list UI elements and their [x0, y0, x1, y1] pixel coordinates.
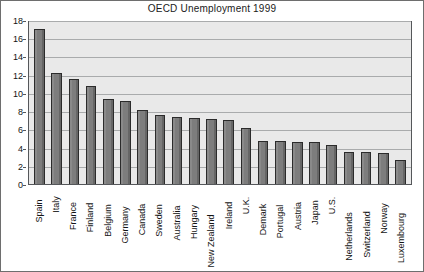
y-tick-mark [23, 21, 26, 22]
x-tick-label-text: Demark [258, 204, 268, 236]
y-tick-label: 12 [13, 71, 23, 81]
y-tick-mark [23, 130, 26, 131]
x-tick-slot: Spain [30, 187, 47, 271]
bar-slot [169, 22, 186, 184]
bar-slot [48, 22, 65, 184]
bar-slot [358, 22, 375, 184]
y-tick-label: 14 [13, 52, 23, 62]
x-tick-label-text: Australia [172, 206, 182, 241]
x-tick-label-text: Austria [293, 202, 303, 230]
bar-slot [254, 22, 271, 184]
x-tick-label-text: Norway [379, 203, 389, 234]
y-tick-label: 18 [13, 16, 23, 26]
x-tick-slot: Japan [306, 187, 323, 271]
x-tick-label-text: U.K. [241, 197, 251, 215]
x-axis: SpainItalyFranceFinlandBelgiumGermanyCan… [28, 187, 412, 271]
x-tick-slot: Australia [168, 187, 185, 271]
chart-figure: OECD Unemployment 1999 024681012141618 S… [0, 0, 424, 272]
bar [326, 145, 337, 184]
x-tick-slot: U.S. [324, 187, 341, 271]
x-tick-label-text: Sweden [154, 204, 164, 237]
y-tick-mark [23, 185, 26, 186]
y-tick-label: 16 [13, 34, 23, 44]
bar-slot [340, 22, 357, 184]
y-tick-label: 10 [13, 89, 23, 99]
x-tick-slot: Hungary [185, 187, 202, 271]
bar-slot [220, 22, 237, 184]
x-tick-label-text: Japan [310, 200, 320, 225]
x-tick-slot: Switzerland [358, 187, 375, 271]
x-tick-label-text: Hungary [189, 205, 199, 239]
y-tick-mark [23, 94, 26, 95]
y-tick-mark [23, 112, 26, 113]
bar-slot [134, 22, 151, 184]
bar-slot [203, 22, 220, 184]
bar-slot [117, 22, 134, 184]
x-tick-label-text: Belgium [103, 204, 113, 237]
bar-slot [186, 22, 203, 184]
x-tick-label-text: Netherlands [344, 212, 354, 261]
x-tick-label-text: New Zealand [206, 215, 216, 268]
x-tick-label-text: Spain [34, 200, 44, 223]
bar-slot [289, 22, 306, 184]
x-tick-slot: Portugal [272, 187, 289, 271]
bar [69, 79, 80, 184]
bar-slot [306, 22, 323, 184]
x-tick-slot: Canada [134, 187, 151, 271]
x-tick-label-text: Finland [85, 203, 95, 233]
x-tick-label-text: Luxembourg [396, 213, 406, 263]
bar-slot [375, 22, 392, 184]
bar-slot [323, 22, 340, 184]
x-tick-slot: Luxembourg [393, 187, 410, 271]
y-tick-mark [23, 39, 26, 40]
x-tick-label-text: Germany [120, 207, 130, 244]
x-tick-slot: Ireland [220, 187, 237, 271]
x-tick-slot: Demark [254, 187, 271, 271]
x-tick-slot: Norway [375, 187, 392, 271]
bar-slot [237, 22, 254, 184]
bar-slot [272, 22, 289, 184]
y-tick-mark [23, 76, 26, 77]
x-tick-label-text: Italy [51, 196, 61, 213]
bar [34, 29, 45, 184]
y-tick-mark [23, 149, 26, 150]
x-tick-slot: Finland [82, 187, 99, 271]
bar-series [29, 22, 411, 184]
x-tick-slot: France [65, 187, 82, 271]
x-tick-slot: Sweden [151, 187, 168, 271]
x-tick-slot: New Zealand [203, 187, 220, 271]
x-tick-label-text: Ireland [224, 202, 234, 230]
x-tick-slot: Germany [116, 187, 133, 271]
bar [241, 128, 252, 184]
x-tick-label-text: Canada [137, 204, 147, 236]
bar-slot [100, 22, 117, 184]
x-tick-label-text: France [68, 202, 78, 230]
x-tick-slot: U.K. [237, 187, 254, 271]
x-tick-slot: Austria [289, 187, 306, 271]
x-tick-label-text: U.S. [327, 197, 337, 215]
bar [51, 73, 62, 184]
y-tick-mark [23, 167, 26, 168]
x-tick-slot: Belgium [99, 187, 116, 271]
bar-slot [392, 22, 409, 184]
x-tick-slot: Italy [47, 187, 64, 271]
bar-slot [31, 22, 48, 184]
x-tick-slot: Netherlands [341, 187, 358, 271]
chart-title: OECD Unemployment 1999 [0, 3, 424, 14]
plot-area [28, 21, 412, 185]
bar-slot [65, 22, 82, 184]
bar [86, 86, 97, 184]
x-tick-label: Luxembourg [401, 163, 411, 213]
y-tick-mark [23, 57, 26, 58]
x-tick-label-text: Switzerland [362, 211, 372, 258]
x-tick-label-text: Portugal [275, 205, 285, 239]
y-axis: 024681012141618 [0, 21, 26, 185]
bar-slot [151, 22, 168, 184]
bar-slot [83, 22, 100, 184]
